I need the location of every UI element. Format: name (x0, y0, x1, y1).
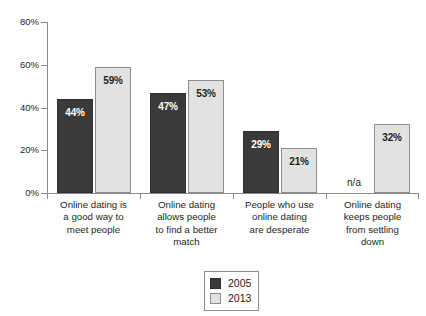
category-label-1-line-2: a good way to (47, 211, 140, 223)
bar-2005-cat3: 29% (243, 131, 279, 193)
legend-swatch-2013-icon (210, 293, 221, 304)
plot-area: 80% 60% 40% 20% 0% 44% 59% (47, 22, 419, 193)
category-label-3: People who use online dating are despera… (233, 199, 326, 236)
bar-label-2013-cat2: 53% (189, 88, 223, 100)
bar-label-2005-cat4-na: n/a (336, 177, 372, 189)
legend-item-2013: 2013 (210, 291, 251, 306)
bar-label-2005-cat1: 44% (58, 107, 92, 119)
bar-2013-cat3: 21% (281, 148, 317, 193)
legend-item-2005: 2005 (210, 276, 251, 291)
bar-label-2005-cat3: 29% (244, 139, 278, 151)
category-label-4-line-3: from settling (326, 224, 419, 236)
bar-chart: 80% 60% 40% 20% 0% 44% 59% (0, 0, 426, 316)
category-label-2: Online dating allows people to find a be… (140, 199, 233, 249)
category-label-3-line-1: People who use (233, 199, 326, 211)
bar-2013-cat2: 53% (188, 80, 224, 193)
y-tick-label-0: 0% (25, 186, 39, 199)
category-label-2-line-4: match (140, 236, 233, 248)
bar-2013-cat4: 32% (374, 124, 410, 193)
bar-2005-cat2: 47% (150, 93, 186, 193)
bar-label-2013-cat3: 21% (282, 156, 316, 168)
bar-group-4: n/a 32% (332, 22, 416, 193)
category-label-4: Online dating keeps people from settling… (326, 199, 419, 249)
category-label-2-line-2: allows people (140, 211, 233, 223)
y-tick-label-80: 80% (20, 15, 39, 28)
category-label-2-line-3: to find a better (140, 224, 233, 236)
y-tick-label-40: 40% (20, 101, 39, 114)
category-label-2-line-1: Online dating (140, 199, 233, 211)
category-label-1: Online dating is a good way to meet peop… (47, 199, 140, 236)
y-tick-label-60: 60% (20, 58, 39, 71)
category-label-4-line-2: keeps people (326, 211, 419, 223)
bar-group-2: 47% 53% (146, 22, 230, 193)
bar-2013-cat1: 59% (95, 67, 131, 193)
category-label-4-line-4: down (326, 236, 419, 248)
bar-label-2005-cat2: 47% (151, 101, 185, 113)
bar-group-3: 29% 21% (239, 22, 323, 193)
category-label-3-line-2: online dating (233, 211, 326, 223)
legend-label-2013: 2013 (228, 292, 251, 305)
category-label-3-line-3: are desperate (233, 224, 326, 236)
bar-label-2013-cat4: 32% (375, 132, 409, 144)
chart-legend: 2005 2013 (204, 271, 259, 311)
category-label-1-line-1: Online dating is (47, 199, 140, 211)
category-label-4-line-1: Online dating (326, 199, 419, 211)
legend-label-2005: 2005 (228, 277, 251, 290)
legend-swatch-2005-icon (210, 278, 221, 289)
bar-group-1: 44% 59% (53, 22, 137, 193)
y-tick-label-20: 20% (20, 143, 39, 156)
bar-2005-cat1: 44% (57, 99, 93, 193)
category-label-1-line-3: meet people (47, 224, 140, 236)
bar-label-2013-cat1: 59% (96, 75, 130, 87)
